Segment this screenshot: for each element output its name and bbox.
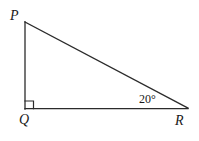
right-angle-marker-icon bbox=[25, 101, 34, 109]
vertex-label-r: R bbox=[175, 114, 184, 128]
vertex-label-q: Q bbox=[19, 113, 29, 127]
angle-measure-label-r: 20° bbox=[139, 93, 156, 105]
hypotenuse-pr-line bbox=[25, 22, 188, 108]
triangle-diagram: P Q R 20° bbox=[0, 0, 199, 141]
triangle-canvas bbox=[0, 0, 199, 141]
vertex-label-p: P bbox=[10, 9, 19, 23]
